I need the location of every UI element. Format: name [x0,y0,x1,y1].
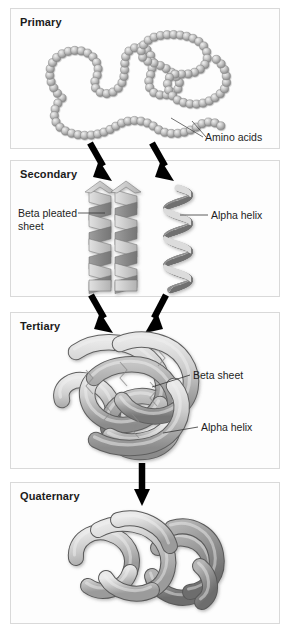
callout-alpha-helix-tertiary: Alpha helix [201,421,252,434]
callout-beta-pleated-sheet: Beta pleated sheet [18,207,90,233]
callout-beta-sheet-tertiary: Beta sheet [193,369,243,382]
panel-title-tertiary: Tertiary [20,320,60,332]
panel-tertiary [10,312,280,469]
panel-title-quaternary: Quaternary [20,490,80,502]
protein-structure-figure: Primary Secondary Tertiary Quaternary [0,0,290,633]
panel-primary [10,8,280,149]
panel-title-secondary: Secondary [20,168,77,180]
callout-alpha-helix-secondary: Alpha helix [211,209,262,222]
panel-title-primary: Primary [20,16,62,28]
callout-amino-acids: Amino acids [205,131,262,144]
panel-quaternary [10,482,280,624]
